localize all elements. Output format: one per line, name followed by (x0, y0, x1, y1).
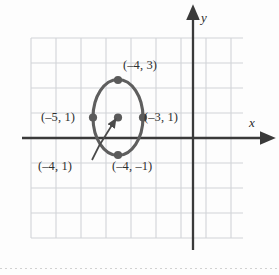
point-label-covertex-left: (–5, 1) (41, 110, 75, 125)
ellipse-graph-figure: (–4, 3) (–5, 1) (–3, 1) (–4, 1) (–4, –1)… (0, 0, 279, 275)
point-vertex-top (114, 76, 122, 84)
axis-label-y: y (201, 10, 207, 26)
point-vertex-bottom (114, 151, 122, 159)
point-label-covertex-right: (–3, 1) (144, 110, 178, 125)
point-covertex-left (89, 113, 97, 121)
axis-label-x: x (249, 115, 255, 131)
coordinate-plane-svg (0, 0, 279, 275)
point-label-center: (–4, 1) (38, 159, 72, 174)
point-label-vertex-top: (–4, 3) (123, 58, 157, 73)
point-label-vertex-bottom: (–4, –1) (112, 159, 152, 174)
point-center (114, 113, 122, 121)
page-divider-rule (0, 268, 279, 269)
